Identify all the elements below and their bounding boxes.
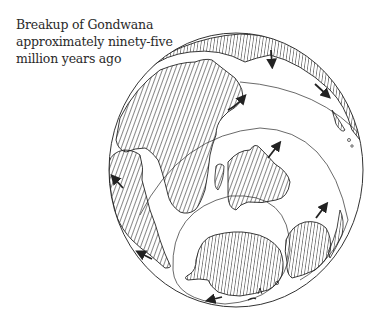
arrow-antarctica-west — [210, 297, 222, 300]
island-dot — [351, 145, 353, 147]
landmass-india — [228, 145, 290, 210]
landmass-new-zealand — [328, 210, 343, 258]
landmass-antarctica — [185, 232, 283, 296]
island-dot — [348, 139, 351, 142]
arrow-australia-northeast — [316, 206, 325, 218]
arrow-india-northeast — [268, 145, 278, 158]
arrow-eurasia-south — [271, 50, 272, 64]
landmass-madagascar — [215, 164, 224, 190]
gondwana-globe-map — [0, 0, 384, 322]
landmass-islands-east — [332, 110, 345, 131]
